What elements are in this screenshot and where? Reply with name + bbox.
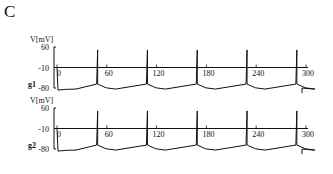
x-tick-label: 240 (252, 69, 264, 78)
voltage-traces-figure: V[mV]60-10-80g1060120180240300V[mV]60-10… (0, 0, 333, 174)
x-tick-label: 60 (105, 69, 113, 78)
trace-panel-2: V[mV]60-10-80g2060120180240300 (28, 96, 315, 154)
y-tick-label: -10 (38, 125, 49, 134)
x-tick-label: 180 (202, 69, 214, 78)
voltage-trace (57, 111, 315, 154)
x-tick-label: 180 (202, 130, 214, 139)
trace-panel-1: V[mV]60-10-80g1060120180240300 (28, 35, 315, 93)
x-tick-label: 240 (252, 130, 264, 139)
y-tick-label: -80 (38, 145, 49, 154)
voltage-trace (57, 50, 315, 93)
y-tick-label: -10 (38, 64, 49, 73)
trace-label: g2 (28, 141, 36, 150)
x-tick-label: 120 (153, 130, 165, 139)
x-tick-label: 300 (302, 69, 314, 78)
y-tick-label: 60 (41, 43, 49, 52)
x-tick-label: 300 (302, 130, 314, 139)
x-tick-label: 60 (105, 130, 113, 139)
x-tick-label: 120 (153, 69, 165, 78)
trace-label: g1 (28, 80, 36, 89)
y-tick-label: 60 (41, 104, 49, 113)
y-tick-label: -80 (38, 84, 49, 93)
